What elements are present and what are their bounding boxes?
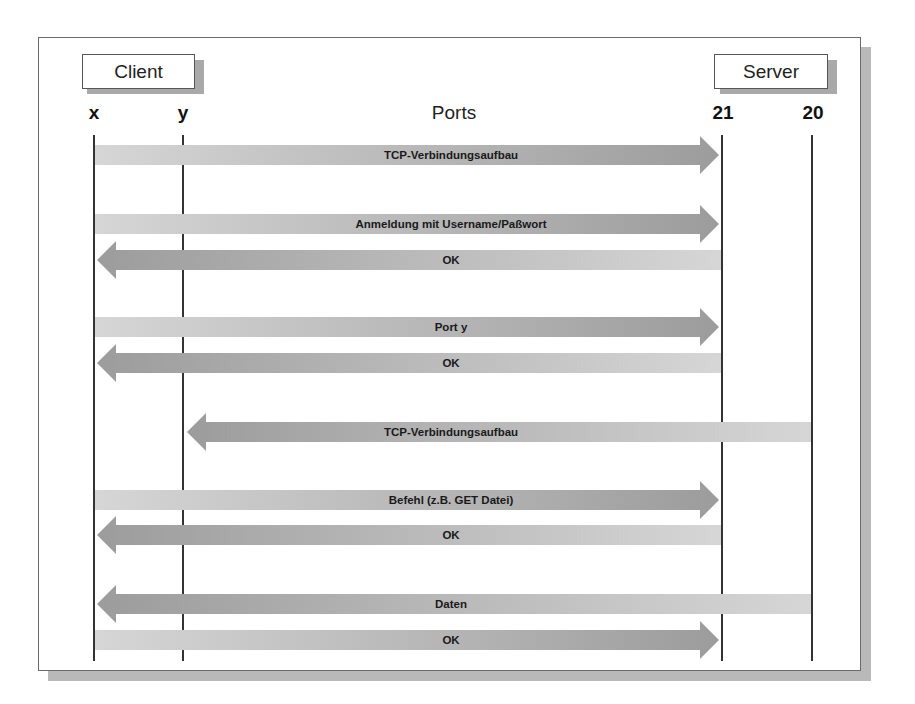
- message-label: Anmeldung mit Username/Paßwort: [355, 218, 546, 230]
- message-label: TCP-Verbindungsaufbau: [384, 149, 518, 161]
- message-label: TCP-Verbindungsaufbau: [384, 426, 518, 438]
- arrow-right: [95, 621, 719, 659]
- message-label: OK: [442, 357, 459, 369]
- arrow-left: [97, 516, 721, 554]
- message-label: Port y: [435, 321, 468, 333]
- message-label: OK: [442, 634, 459, 646]
- message-label: Daten: [435, 598, 467, 610]
- message-label: OK: [442, 529, 459, 541]
- arrow-left: [97, 344, 721, 382]
- message-label: Befehl (z.B. GET Datei): [389, 494, 514, 506]
- arrow-left: [97, 241, 721, 279]
- message-label: OK: [442, 254, 459, 266]
- arrow-right: [95, 308, 719, 346]
